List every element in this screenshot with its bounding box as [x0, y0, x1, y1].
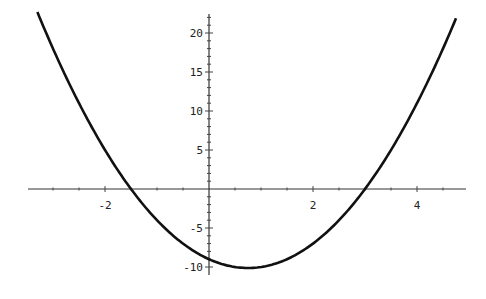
y-tick-label: -5	[190, 222, 203, 235]
x-tick-label: -2	[98, 199, 111, 212]
x-tick-label: 2	[310, 199, 317, 212]
y-tick-label: 10	[190, 105, 203, 118]
parabola-curve	[37, 12, 456, 268]
tick-labels: -224-10-55101520	[98, 27, 420, 274]
axes	[28, 14, 466, 275]
parabola-plot: -224-10-55101520	[0, 0, 486, 299]
tick-marks	[53, 17, 443, 267]
y-tick-label: 5	[196, 144, 203, 157]
y-tick-label: -10	[183, 261, 203, 274]
x-tick-label: 4	[414, 199, 421, 212]
y-tick-label: 15	[190, 66, 203, 79]
y-tick-label: 20	[190, 27, 203, 40]
